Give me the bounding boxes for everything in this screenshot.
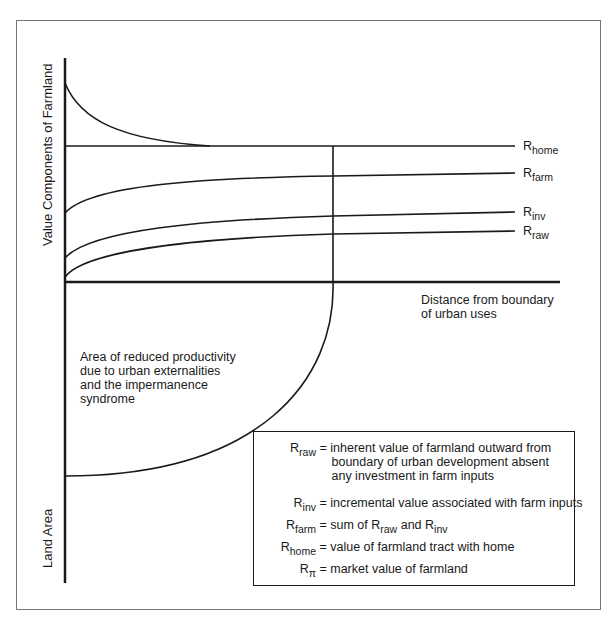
- r-raw-curve: [65, 231, 515, 277]
- legend-item-r-raw: Rraw = inherent value of farmland outwar…: [258, 441, 551, 483]
- legend-item-r-home: Rhome = value of farmland tract with hom…: [258, 540, 514, 554]
- legend-item-r-inv: Rinv = incremental value associated with…: [258, 496, 582, 510]
- label-r-home: Rhome: [523, 139, 558, 153]
- legend-box: Rraw = inherent value of farmland outwar…: [253, 431, 575, 586]
- label-r-farm: Rfarm: [523, 166, 553, 180]
- y-axis-lower-label: Land Area: [40, 509, 55, 568]
- y-axis-upper-label: Value Components of Farmland: [40, 63, 55, 246]
- area-note: Area of reduced productivity due to urba…: [80, 350, 236, 406]
- legend-item-r-pi: Rπ = market value of farmland: [258, 562, 468, 576]
- x-axis-label: Distance from boundary of urban uses: [421, 293, 554, 321]
- label-r-raw: Rraw: [523, 224, 549, 238]
- market-value-curve: [65, 83, 210, 146]
- legend-item-r-farm: Rfarm = sum of Rraw and Rinv: [258, 518, 447, 532]
- label-r-inv: Rinv: [523, 205, 545, 219]
- r-farm-curve: [65, 173, 515, 213]
